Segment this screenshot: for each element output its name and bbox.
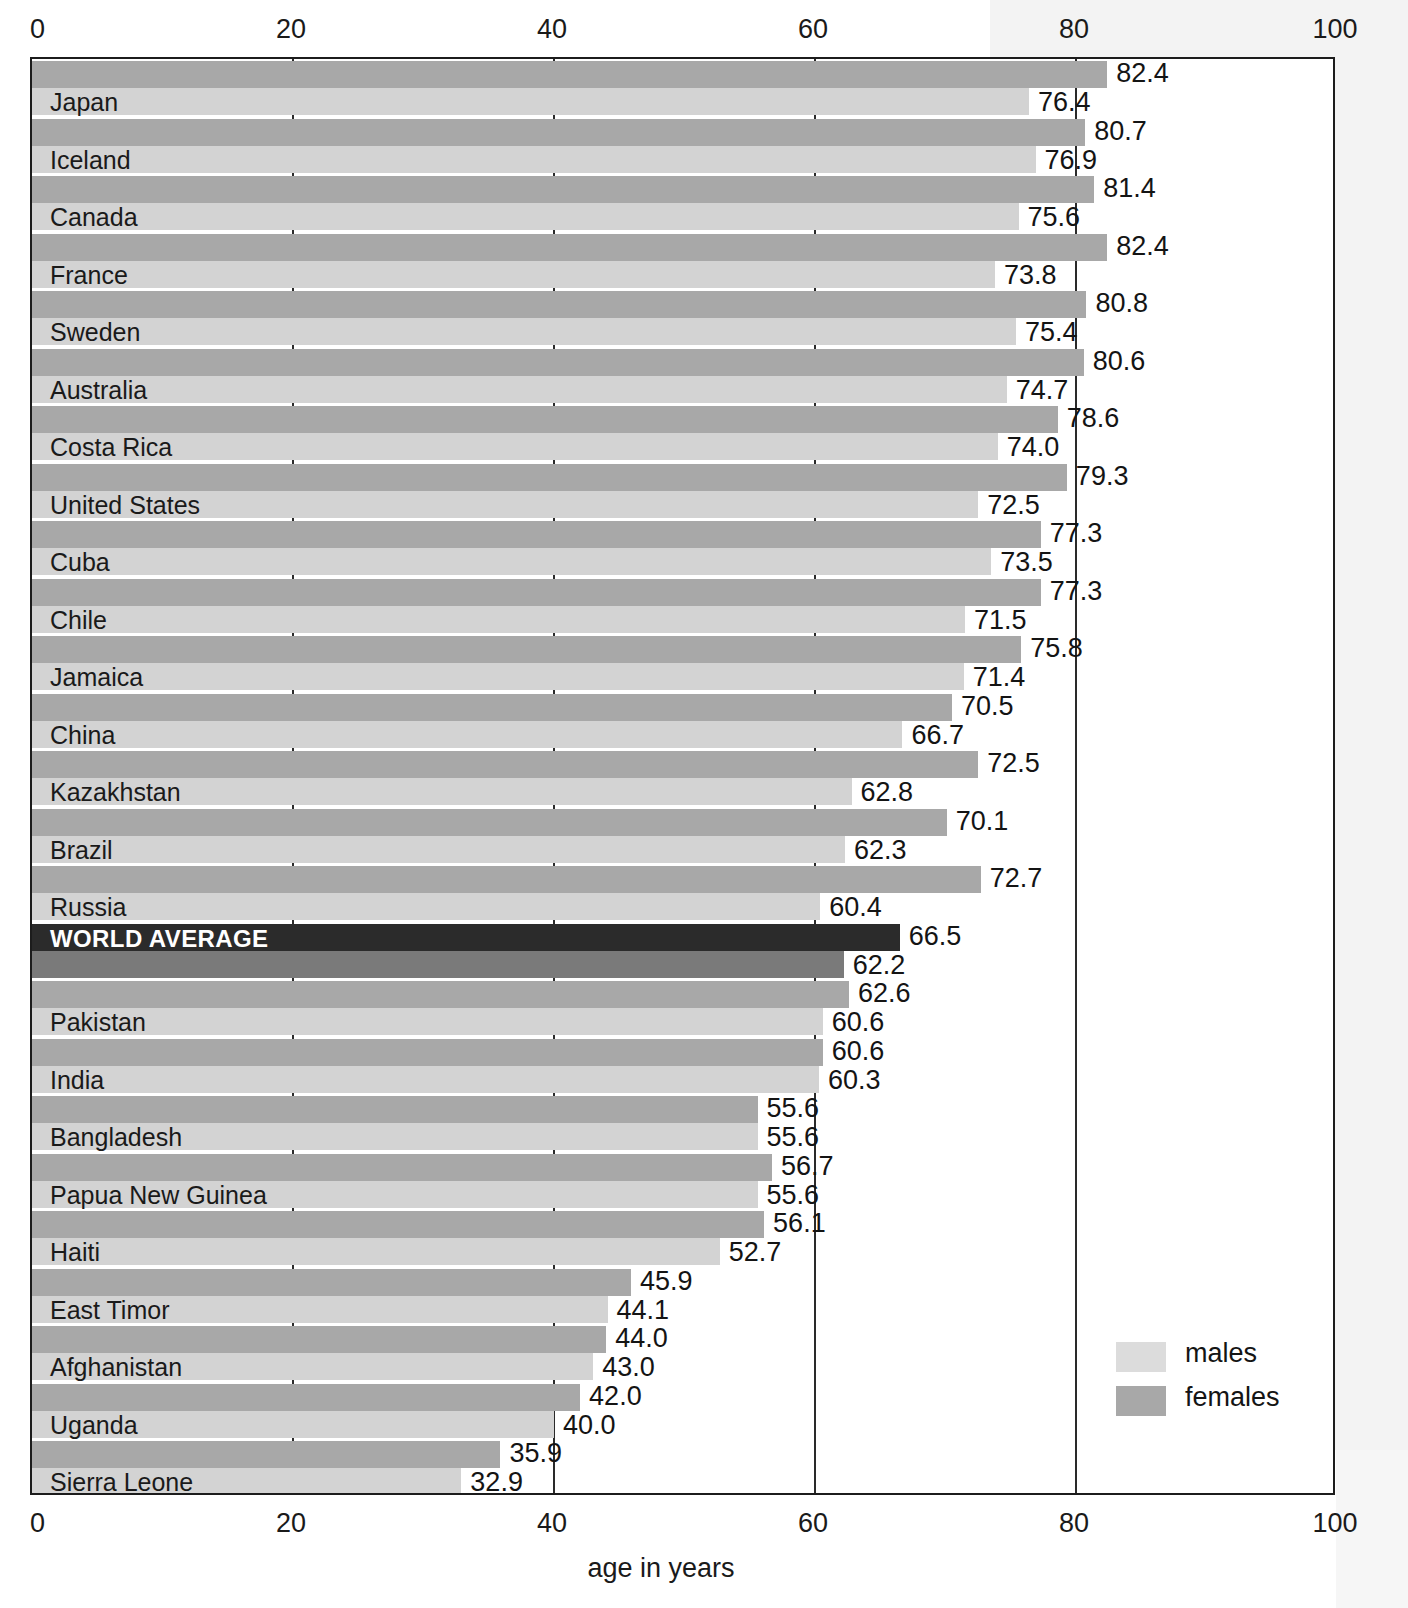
bar-females [32, 924, 900, 951]
value-label-females: 62.6 [858, 978, 911, 1009]
bar-males [32, 1008, 823, 1035]
x-tick-top-0: 0 [30, 14, 45, 45]
x-tick-top-20: 20 [276, 14, 306, 45]
legend-swatch-females [1116, 1386, 1166, 1416]
bar-row: Haiti56.152.7 [32, 1211, 1333, 1267]
bar-row: China70.566.7 [32, 694, 1333, 750]
bar-females [32, 1154, 772, 1181]
value-label-females: 72.7 [990, 863, 1043, 894]
value-label-males: 66.7 [911, 720, 964, 751]
value-label-males: 71.5 [974, 605, 1027, 636]
bar-row: France82.473.8 [32, 234, 1333, 290]
bar-males [32, 146, 1036, 173]
bar-row: Russia72.760.4 [32, 866, 1333, 922]
value-label-females: 56.1 [773, 1208, 826, 1239]
value-label-females: 78.6 [1067, 403, 1120, 434]
x-tick-top-80: 80 [1059, 14, 1089, 45]
legend-swatch-males [1116, 1342, 1166, 1372]
bar-row: India60.660.3 [32, 1039, 1333, 1095]
life-expectancy-bar-chart: 020406080100 Japan82.476.4Iceland80.776.… [0, 0, 1408, 1608]
bar-males [32, 1238, 720, 1265]
value-label-males: 62.2 [853, 950, 906, 981]
value-label-males: 71.4 [973, 662, 1026, 693]
value-label-females: 79.3 [1076, 461, 1129, 492]
bar-males [32, 203, 1019, 230]
bar-males [32, 376, 1007, 403]
bar-females [32, 579, 1041, 606]
bar-males [32, 491, 978, 518]
value-label-females: 72.5 [987, 748, 1040, 779]
bar-row: Costa Rica78.674.0 [32, 406, 1333, 462]
x-tick-bottom-20: 20 [276, 1508, 306, 1539]
value-label-males: 52.7 [729, 1237, 782, 1268]
bar-females [32, 1326, 606, 1353]
value-label-males: 60.6 [832, 1007, 885, 1038]
value-label-males: 73.8 [1004, 260, 1057, 291]
bar-males [32, 1353, 593, 1380]
bar-females [32, 636, 1021, 663]
x-axis-label: age in years [0, 1553, 1408, 1584]
value-label-males: 43.0 [602, 1352, 655, 1383]
bar-females [32, 1211, 764, 1238]
bar-males [32, 721, 902, 748]
bar-females [32, 1096, 758, 1123]
value-label-females: 35.9 [509, 1438, 562, 1469]
value-label-females: 56.7 [781, 1151, 834, 1182]
value-label-males: 73.5 [1000, 547, 1053, 578]
value-label-females: 82.4 [1116, 231, 1169, 262]
value-label-males: 44.1 [617, 1295, 670, 1326]
bar-males [32, 548, 991, 575]
bar-row: Cuba77.373.5 [32, 521, 1333, 577]
x-tick-bottom-80: 80 [1059, 1508, 1089, 1539]
bar-females [32, 809, 947, 836]
bar-row: Australia80.674.7 [32, 349, 1333, 405]
value-label-males: 55.6 [767, 1122, 820, 1153]
value-label-males: 62.3 [854, 835, 907, 866]
bar-males [32, 1296, 608, 1323]
bar-males [32, 1411, 554, 1438]
value-label-males: 74.7 [1016, 375, 1069, 406]
bar-males [32, 1181, 758, 1208]
bar-females [32, 234, 1107, 261]
x-tick-bottom-40: 40 [537, 1508, 567, 1539]
bar-females [32, 349, 1084, 376]
value-label-males: 74.0 [1007, 432, 1060, 463]
value-label-females: 80.7 [1094, 116, 1147, 147]
value-label-females: 60.6 [832, 1036, 885, 1067]
bar-males [32, 663, 964, 690]
bar-males [32, 318, 1016, 345]
bar-females [32, 981, 849, 1008]
value-label-females: 81.4 [1103, 173, 1156, 204]
value-label-males: 32.9 [470, 1467, 523, 1493]
value-label-females: 70.5 [961, 691, 1014, 722]
bar-females [32, 694, 952, 721]
value-label-females: 66.5 [909, 921, 962, 952]
bar-females [32, 751, 978, 778]
value-label-females: 55.6 [767, 1093, 820, 1124]
value-label-females: 82.4 [1116, 59, 1169, 89]
bar-males [32, 893, 820, 920]
value-label-females: 80.6 [1093, 346, 1146, 377]
value-label-females: 70.1 [956, 806, 1009, 837]
bar-row: Brazil70.162.3 [32, 809, 1333, 865]
value-label-males: 76.9 [1045, 145, 1098, 176]
bar-males [32, 261, 995, 288]
bar-row: East Timor45.944.1 [32, 1269, 1333, 1325]
value-label-males: 60.4 [829, 892, 882, 923]
x-tick-bottom-0: 0 [30, 1508, 45, 1539]
x-axis-label-text: age in years [587, 1553, 734, 1583]
bar-row-world-average: WORLD AVERAGE66.562.2 [32, 924, 1333, 980]
bar-females [32, 291, 1086, 318]
bar-males [32, 1468, 461, 1493]
value-label-females: 44.0 [615, 1323, 668, 1354]
value-label-females: 45.9 [640, 1266, 693, 1297]
x-tick-top-100: 100 [1312, 14, 1357, 45]
bar-males [32, 951, 844, 978]
bar-row: Canada81.475.6 [32, 176, 1333, 232]
bar-row: Bangladesh55.655.6 [32, 1096, 1333, 1152]
x-tick-bottom-100: 100 [1312, 1508, 1357, 1539]
value-label-females: 75.8 [1030, 633, 1083, 664]
value-label-males: 72.5 [987, 490, 1040, 521]
bar-females [32, 119, 1085, 146]
bar-row: Sierra Leone35.932.9 [32, 1441, 1333, 1493]
